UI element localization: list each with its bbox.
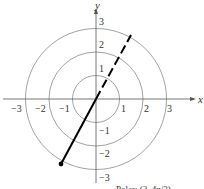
y-tick-label: −1 (99, 125, 110, 136)
x-tick-label: −2 (35, 103, 46, 114)
point-caption: Polar: (2, 4π/3) (116, 184, 171, 189)
x-tick-label: 1 (121, 103, 126, 114)
x-axis-label: x (197, 93, 203, 105)
x-axis-arrow-icon (190, 97, 196, 101)
x-tick-label: 3 (167, 103, 172, 114)
polar-diagram: x y −3 −2 −1 1 2 3 3 2 1 −1 −2 −3 Polar:… (0, 0, 204, 189)
x-tick-label: 2 (144, 103, 149, 114)
point-marker (59, 162, 64, 167)
x-tick-label: −1 (59, 103, 70, 114)
y-tick-label: 3 (99, 16, 104, 27)
y-tick-label: 2 (99, 39, 104, 50)
y-tick-label: −3 (99, 172, 110, 183)
x-tick-label: −3 (11, 103, 22, 114)
y-tick-label: 1 (99, 63, 104, 74)
y-axis-label: y (94, 0, 100, 11)
y-tick-label: −2 (99, 148, 110, 159)
